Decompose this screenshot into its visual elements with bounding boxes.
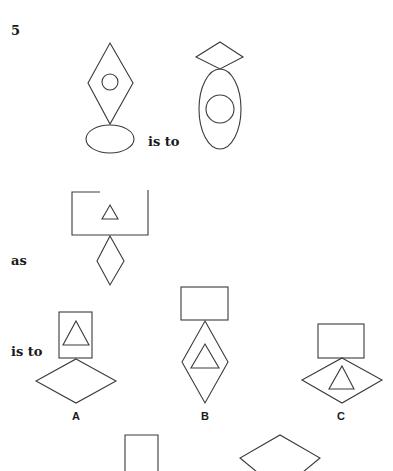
triangle-shape	[63, 321, 89, 345]
tall-rectangle-shape	[59, 312, 92, 358]
option-a-label: A	[72, 410, 80, 422]
option-a[interactable]: A	[36, 312, 116, 422]
figure-3	[72, 190, 148, 285]
wide-rectangle-shape	[181, 287, 228, 320]
vertical-ellipse-shape	[199, 69, 241, 149]
small-triangle-shape	[102, 205, 118, 219]
tall-diamond-shape	[182, 321, 228, 403]
figure-2	[196, 42, 243, 149]
wide-rectangle-shape	[72, 190, 148, 235]
puzzle-canvas: 5 is to as is to A B C	[0, 0, 393, 471]
option-c-label: C	[337, 410, 345, 422]
tall-diamond-shape	[88, 43, 133, 124]
partial-option-row	[125, 435, 320, 471]
option-c[interactable]: C	[302, 324, 382, 422]
small-wide-diamond-shape	[196, 42, 243, 69]
option-b[interactable]: B	[181, 287, 228, 422]
horizontal-ellipse-shape	[86, 125, 134, 153]
triangle-shape	[329, 366, 354, 389]
is-to-label-1: is to	[148, 134, 180, 149]
wide-rectangle-shape	[318, 324, 364, 358]
is-to-label-2: is to	[11, 344, 43, 359]
option-b-label: B	[201, 410, 209, 422]
wide-diamond-shape	[36, 359, 116, 403]
small-tall-diamond-shape	[97, 236, 124, 285]
wide-diamond-shape-partial	[240, 435, 320, 471]
question-number: 5	[11, 23, 20, 38]
tall-rectangle-shape-partial	[125, 435, 158, 471]
as-label: as	[11, 253, 27, 268]
figure-1	[86, 43, 134, 153]
circle-shape	[206, 95, 234, 123]
circle-shape	[102, 74, 118, 90]
wide-diamond-shape	[302, 358, 382, 403]
triangle-shape	[191, 344, 219, 368]
